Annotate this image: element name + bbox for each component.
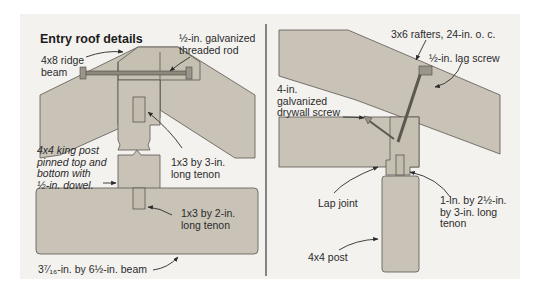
king-post-lower	[118, 150, 160, 190]
label-post-tenon: 1-in. by 2½-in. by 3-in. long tenon	[440, 195, 507, 230]
label-lap-joint: Lap joint	[318, 198, 358, 210]
label-lag-screw: ½-in. lag screw	[429, 53, 500, 65]
label-tenon-bottom: 1x3 by 2-in. long tenon	[181, 208, 235, 231]
label-tenon-top: 1x3 by 3-in. long tenon	[171, 157, 225, 180]
king-post-upper	[118, 80, 160, 150]
label-threaded-rod: ½-in. galvanized threaded rod	[179, 33, 255, 56]
label-rafters: 3x6 rafters, 24-in. o. c.	[391, 29, 495, 41]
label-ridge-beam: 4x8 ridge beam	[41, 55, 84, 78]
label-beam: 3⁷⁄₁₆-in. by 6½-in. beam	[38, 264, 147, 276]
post-4x4	[382, 176, 419, 272]
label-drywall-screw: 4-in. galvanized drywall screw	[277, 84, 340, 119]
label-king-post: 4x4 king post pinned top and bottom with…	[37, 145, 106, 191]
diagram-title: Entry roof details	[40, 32, 143, 46]
label-post: 4x4 post	[308, 252, 348, 264]
